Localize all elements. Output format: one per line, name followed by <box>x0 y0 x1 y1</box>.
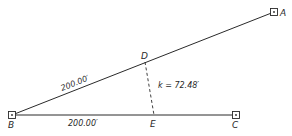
station-marker-C-icon <box>233 112 240 119</box>
station-marker-B-icon <box>9 112 16 119</box>
dimension-DE: k = 72.48′ <box>158 81 199 90</box>
point-label-E: E <box>150 119 156 129</box>
point-label-D: D <box>141 51 148 61</box>
survey-diagram: A B C D E 200.00′ 200.00′ k = 72.48′ <box>0 0 292 136</box>
point-label-B: B <box>8 120 14 130</box>
station-marker-A-icon <box>271 9 278 16</box>
point-label-A: A <box>279 8 286 18</box>
point-label-C: C <box>232 120 239 130</box>
line-BA <box>12 12 274 115</box>
line-DE-dashed <box>145 62 154 115</box>
dimension-BE: 200.00′ <box>68 119 98 128</box>
